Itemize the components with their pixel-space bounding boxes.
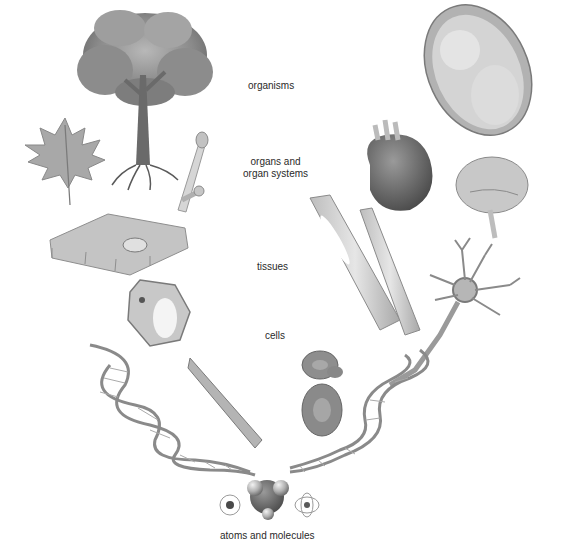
label-organisms: organisms — [248, 80, 294, 92]
plant-stem-illustration — [178, 132, 208, 212]
plant-cell-illustration — [128, 280, 190, 346]
atom-left-illustration — [220, 495, 240, 515]
brain-illustration — [456, 157, 528, 238]
label-organs-line2: organ systems — [243, 168, 308, 180]
label-organs-and-organ-systems: organs and organ systems — [243, 156, 308, 180]
blood-vessels-illustration — [310, 195, 420, 335]
red-blood-cells-illustration — [302, 351, 343, 436]
label-atoms-and-molecules: atoms and molecules — [220, 530, 315, 542]
muscle-cell-illustration — [188, 358, 262, 448]
water-molecule-illustration — [247, 480, 289, 520]
maple-leaf-illustration — [25, 118, 105, 205]
label-tissues: tissues — [257, 261, 288, 273]
heart-illustration — [367, 120, 432, 211]
atom-right-illustration — [295, 493, 319, 517]
label-cells: cells — [265, 330, 285, 342]
biological-organization-diagram: organisms organs and organ systems tissu… — [0, 0, 563, 551]
fetus-illustration — [404, 0, 552, 153]
plant-tissue-illustration — [50, 214, 188, 275]
label-organs-line1: organs and — [243, 156, 308, 168]
